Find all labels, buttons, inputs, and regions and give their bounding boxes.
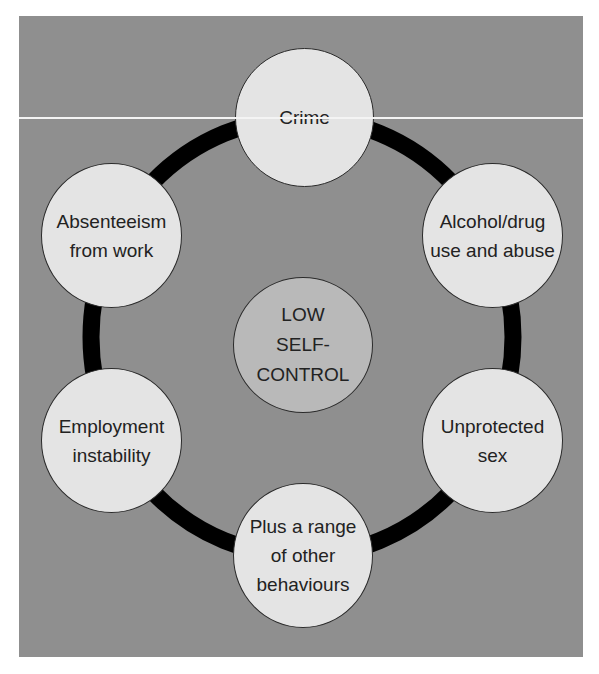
node-alcohol-label: Alcohol/drug use and abuse <box>426 207 559 265</box>
node-other-behaviours: Plus a range of other behaviours <box>233 483 373 628</box>
node-unprotected-sex: Unprotected sex <box>422 368 563 513</box>
node-employment-label: Employment instability <box>55 412 169 470</box>
node-employment-instability: Employment instability <box>41 368 182 513</box>
scan-line-artifact <box>19 117 583 119</box>
node-unprotected-label: Unprotected sex <box>437 412 549 470</box>
node-absenteeism-label: Absenteeism from work <box>53 207 171 265</box>
node-other-label: Plus a range of other behaviours <box>246 512 361 599</box>
node-absenteeism: Absenteeism from work <box>41 163 182 308</box>
center-label: LOW SELF- CONTROL <box>253 300 354 390</box>
node-low-self-control: LOW SELF- CONTROL <box>233 277 373 413</box>
node-alcohol-drug-use: Alcohol/drug use and abuse <box>422 163 563 308</box>
